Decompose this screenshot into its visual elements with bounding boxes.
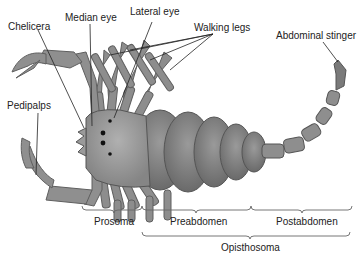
label-chelicera: Chelicera — [8, 22, 50, 32]
postabdomen — [262, 60, 346, 158]
label-preabdomen: Preabdomen — [170, 217, 227, 227]
lateral-eye-dot — [108, 119, 112, 123]
label-abdominal-stinger: Abdominal stinger — [276, 31, 356, 41]
preabdomen — [134, 110, 266, 192]
pedipalp-upper — [12, 50, 100, 122]
label-lateral-eye: Lateral eye — [130, 7, 179, 17]
label-walking-legs: Walking legs — [194, 23, 250, 33]
label-pedipalps: Pedipalps — [7, 101, 51, 111]
label-prosoma: Prosoma — [94, 217, 134, 227]
median-eye-dot — [101, 131, 106, 136]
stinger — [334, 60, 346, 90]
label-opisthosoma: Opisthosoma — [221, 243, 280, 253]
label-postabdomen: Postabdomen — [276, 217, 338, 227]
prosoma-carapace — [76, 110, 150, 187]
label-median-eye: Median eye — [65, 13, 117, 23]
